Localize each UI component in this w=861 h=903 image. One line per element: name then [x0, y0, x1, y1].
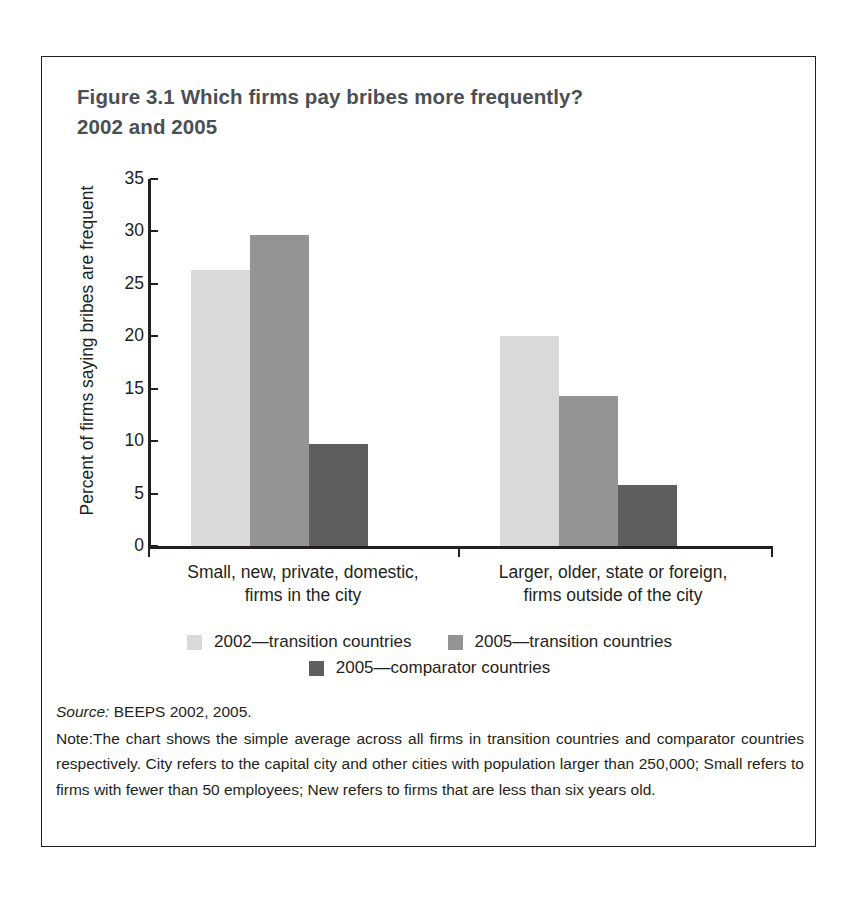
y-tick-label-0: 0 — [102, 537, 144, 555]
y-tick-label-30: 30 — [102, 222, 144, 240]
figure-title-line1: Figure 3.1 Which firms pay bribes more f… — [77, 85, 583, 108]
y-tick-label-10: 10 — [102, 432, 144, 450]
chart-legend: 2002—transition countries 2005—transitio… — [42, 629, 817, 681]
legend-item-1: 2005—transition countries — [448, 629, 673, 655]
legend-swatch-icon-0 — [187, 635, 202, 650]
category-label-line: firms outside of the city — [463, 584, 763, 607]
category-label-1: Larger, older, state or foreign,firms ou… — [463, 561, 763, 607]
y-tick-label-25: 25 — [102, 275, 144, 293]
figure-notes: Source: BEEPS 2002, 2005. Note:The chart… — [56, 699, 804, 802]
figure-title-line2: 2002 and 2005 — [77, 112, 777, 142]
y-tick-label-15: 15 — [102, 380, 144, 398]
category-label-line: firms in the city — [153, 584, 453, 607]
legend-item-0: 2002—transition countries — [187, 629, 412, 655]
chart-plot-area: Percent of firms saying bribes are frequ… — [42, 165, 817, 635]
note-label: Note: — [56, 730, 93, 747]
legend-swatch-icon-2 — [309, 661, 324, 676]
legend-row-top: 2002—transition countries 2005—transitio… — [42, 629, 817, 655]
legend-label-1: 2005—transition countries — [475, 629, 673, 655]
bar-g1-s1 — [559, 396, 618, 546]
bar-g0-s0 — [191, 270, 250, 546]
y-tick-label-20: 20 — [102, 327, 144, 345]
category-label-line: Small, new, private, domestic, — [153, 561, 453, 584]
bar-g0-s1 — [250, 235, 309, 546]
page-root: Figure 3.1 Which firms pay bribes more f… — [0, 0, 861, 903]
note-line: Note:The chart shows the simple average … — [56, 726, 804, 803]
y-tick-label-35: 35 — [102, 170, 144, 188]
bar-g1-s2 — [618, 485, 677, 546]
source-line: Source: BEEPS 2002, 2005. — [56, 699, 804, 725]
x-tick-2 — [771, 548, 773, 557]
category-label-line: Larger, older, state or foreign, — [463, 561, 763, 584]
bar-g0-s2 — [309, 444, 368, 546]
x-tick-1 — [458, 548, 460, 557]
bars-layer — [148, 179, 773, 546]
y-axis-tick-labels: 05101520253035 — [94, 165, 144, 548]
source-text: BEEPS 2002, 2005. — [109, 703, 251, 720]
y-tick-label-5: 5 — [102, 485, 144, 503]
x-axis-line — [148, 546, 773, 549]
legend-swatch-icon-1 — [448, 635, 463, 650]
legend-item-2: 2005—comparator countries — [309, 655, 551, 681]
x-tick-0 — [148, 548, 150, 557]
figure-frame: Figure 3.1 Which firms pay bribes more f… — [41, 56, 816, 847]
legend-row-bottom: 2005—comparator countries — [42, 655, 817, 681]
category-label-0: Small, new, private, domestic,firms in t… — [153, 561, 453, 607]
bar-g1-s0 — [500, 336, 559, 546]
figure-title: Figure 3.1 Which firms pay bribes more f… — [77, 82, 777, 142]
x-axis-category-labels: Small, new, private, domestic,firms in t… — [148, 561, 773, 619]
legend-label-0: 2002—transition countries — [214, 629, 412, 655]
source-label: Source: — [56, 703, 109, 720]
legend-label-2: 2005—comparator countries — [336, 655, 551, 681]
note-text: The chart shows the simple average acros… — [56, 730, 804, 798]
